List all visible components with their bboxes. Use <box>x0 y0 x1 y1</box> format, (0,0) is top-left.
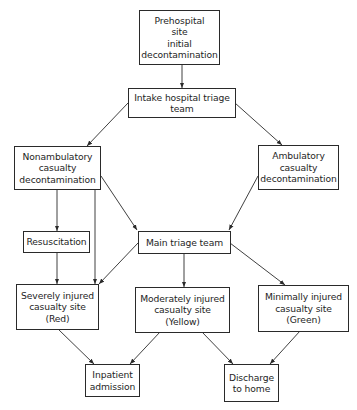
node-resuscitation: Resuscitation <box>23 231 90 253</box>
node-nonambulatory-decontamination: Nonambulatory casualty decontamination <box>14 146 101 190</box>
flowchart-canvas: Prehospital site initial decontamination… <box>0 0 357 410</box>
node-intake-hospital-triage-team: Intake hospital triage team <box>128 88 236 118</box>
edge-ambulatory-to-main-triage <box>229 176 258 230</box>
edge-main-triage-to-minimally <box>230 243 285 285</box>
edge-moderately-to-discharge <box>202 332 233 364</box>
edge-nonambulatory-to-main-triage <box>101 176 137 230</box>
edge-severely-to-inpatient <box>58 329 94 364</box>
node-ambulatory-decontamination: Ambulatory casualty decontamination <box>258 145 339 190</box>
node-label: Inpatient admission <box>90 369 136 392</box>
node-label: Severely injured casualty site (Red) <box>21 290 94 325</box>
node-label: Intake hospital triage team <box>134 92 230 115</box>
node-main-triage-team: Main triage team <box>138 231 231 254</box>
node-moderately-injured-site-yellow: Moderately injured casualty site (Yellow… <box>135 287 230 333</box>
edge-minimally-to-discharge <box>270 331 300 364</box>
node-label: Ambulatory casualty decontamination <box>260 150 336 185</box>
node-severely-injured-site-red: Severely injured casualty site (Red) <box>16 284 99 330</box>
node-label: Main triage team <box>146 237 223 249</box>
node-label: Prehospital site initial decontamination <box>141 15 217 61</box>
node-label: Nonambulatory casualty decontamination <box>19 151 95 186</box>
node-label: Resuscitation <box>26 236 86 248</box>
node-label: Moderately injured casualty site (Yellow… <box>140 293 225 328</box>
node-minimally-injured-site-green: Minimally injured casualty site (Green) <box>258 285 349 332</box>
node-prehospital-decontamination: Prehospital site initial decontamination <box>139 10 220 65</box>
node-label: Discharge to home <box>229 372 274 395</box>
edge-intake-to-ambulatory <box>235 103 282 145</box>
edge-moderately-to-inpatient <box>130 332 160 364</box>
edge-main-triage-to-severely <box>99 243 138 284</box>
node-inpatient-admission: Inpatient admission <box>85 364 140 397</box>
node-label: Minimally injured casualty site (Green) <box>265 291 342 326</box>
edge-intake-to-nonambulatory <box>87 103 128 146</box>
node-discharge-to-home: Discharge to home <box>224 364 279 402</box>
